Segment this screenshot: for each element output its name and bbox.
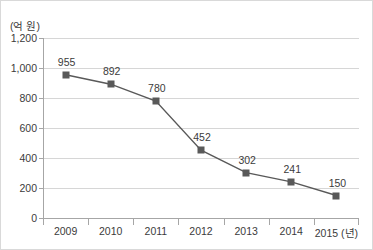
y-axis-tick-label: 0: [3, 212, 37, 224]
x-axis-tick-label: 2014: [280, 225, 303, 237]
line-chart: (억 원) 02004006008001,0001,200 9558927804…: [0, 0, 373, 250]
data-point-label: 780: [148, 82, 166, 94]
x-axis-tick-label: 2009: [54, 225, 77, 237]
y-axis-unit-label: (억 원): [10, 18, 40, 33]
y-axis-tick-label: 1,200: [3, 32, 37, 44]
y-axis-tick-label: 800: [3, 92, 37, 104]
x-axis-tick-label: 2015 (년): [315, 225, 358, 240]
y-axis-tick-label: 400: [3, 152, 37, 164]
y-axis-tick-label: 1,000: [3, 62, 37, 74]
data-point-label: 955: [58, 56, 76, 68]
plot-area: 955892780452302241150: [43, 38, 359, 218]
data-point-marker: [243, 169, 250, 176]
data-point-label: 150: [329, 177, 347, 189]
y-axis-tick-label: 200: [3, 182, 37, 194]
data-point-label: 452: [193, 131, 211, 143]
x-axis-tick-label: 2013: [234, 225, 257, 237]
y-axis-tick-label: 600: [3, 122, 37, 134]
x-axis-tick-label: 2012: [189, 225, 212, 237]
data-point-label: 892: [103, 65, 121, 77]
data-point-marker: [152, 98, 159, 105]
series-line: [43, 38, 359, 218]
data-point-label: 241: [284, 163, 302, 175]
data-point-marker: [198, 147, 205, 154]
y-axis-tick-labels: 02004006008001,0001,200: [1, 38, 37, 218]
data-point-marker: [62, 71, 69, 78]
x-axis-tick-label: 2010: [99, 225, 122, 237]
y-axis-line: [43, 38, 44, 219]
data-point-marker: [288, 178, 295, 185]
x-axis-tick-label: 2011: [145, 225, 168, 237]
x-axis-tick-labels: 2009201020112012201320142015 (년): [43, 225, 359, 243]
data-point-marker: [107, 81, 114, 88]
data-point-label: 302: [238, 154, 256, 166]
data-point-marker: [333, 192, 340, 199]
